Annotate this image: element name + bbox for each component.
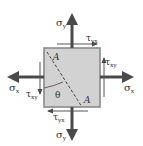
- sigma-y-top-label: σy: [56, 17, 67, 30]
- sigma-x-left-label: σx: [9, 82, 20, 94]
- sigma-x-right-label: σx: [124, 82, 135, 94]
- theta-label: θ: [55, 90, 60, 100]
- tau-yx-bottom-label: τyx: [53, 112, 65, 124]
- tau-xy-left-label: τxy: [26, 89, 38, 101]
- plane-label-top: A: [52, 52, 60, 62]
- tau-xy-right-label: τxy: [105, 57, 117, 69]
- sigma-y-bottom-label: σy: [56, 129, 67, 142]
- tau-yx-top-label: τyx: [86, 33, 98, 45]
- plane-label-bottom: A: [83, 95, 91, 105]
- stress-element-diagram: σy σy σx σx τyx τyx τxy τxy A A θ: [0, 0, 143, 146]
